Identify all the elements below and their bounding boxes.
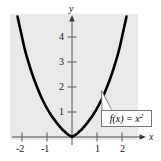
y-tick-label-3: 3 — [59, 57, 64, 67]
y-axis-arrowhead — [69, 15, 75, 22]
function-name-text: f(x) — [110, 113, 124, 124]
y-tick-label-2: 2 — [59, 82, 64, 92]
y-axis-label: y — [69, 4, 73, 14]
x-axis-label: x — [149, 132, 153, 142]
function-equation-label: f(x) = x2 — [110, 114, 144, 124]
parabola-figure: -2 -1 1 2 1 2 3 4 y x f(x) = x2 — [0, 0, 161, 161]
y-tick-label-4: 4 — [59, 32, 64, 42]
y-tick-label-1: 1 — [59, 107, 64, 117]
equals-sign-text: = — [124, 113, 136, 124]
exponent-text: 2 — [140, 111, 144, 119]
x-axis-arrowhead — [140, 134, 147, 140]
function-callout-box: f(x) = x2 — [101, 110, 152, 127]
x-tick-label-1: 1 — [95, 144, 100, 154]
x-tick-label--2: -2 — [16, 144, 24, 154]
x-tick-label-2: 2 — [120, 144, 125, 154]
graph-canvas — [0, 0, 161, 161]
callout-leader-pointer — [102, 91, 113, 111]
x-tick-label--1: -1 — [41, 144, 49, 154]
